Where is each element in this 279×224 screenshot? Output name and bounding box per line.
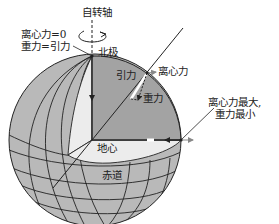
label-centrifugal: 离心力	[158, 65, 188, 77]
earth-force-diagram: 自转轴 离心力=0 重力=引力 北极 引力 离心力 重力 离心力最大, 重力最小…	[0, 0, 279, 224]
label-pole-gravity: 重力=引力	[21, 40, 70, 52]
label-pole-centrifugal: 离心力=0	[21, 28, 66, 40]
label-rotation-axis: 自转轴	[82, 6, 112, 18]
label-equator: 赤道	[102, 169, 123, 181]
label-north-pole: 北极	[98, 46, 119, 58]
label-gravity: 重力	[143, 92, 163, 104]
label-equator-line2: 重力最小	[215, 108, 256, 120]
label-gravitation: 引力	[116, 69, 136, 81]
label-earth-center: 地心	[97, 142, 118, 154]
label-equator-line1: 离心力最大,	[208, 96, 261, 108]
